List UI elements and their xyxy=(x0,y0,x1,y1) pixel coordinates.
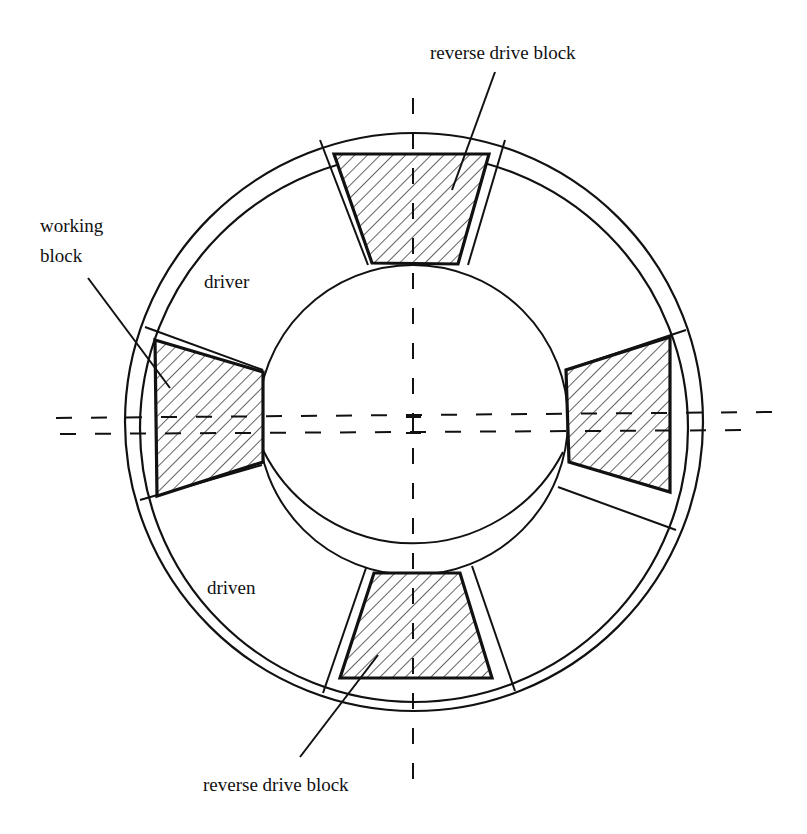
bottom-reverse-drive-block xyxy=(340,573,492,678)
label-reverse-drive-block-top: reverse drive block xyxy=(430,42,576,64)
coupling-cross-section-diagram xyxy=(0,0,807,834)
label-driven: driven xyxy=(207,577,256,599)
label-working-block-line2: block xyxy=(40,245,82,267)
center-mark xyxy=(406,417,421,433)
top-reverse-drive-block xyxy=(334,154,489,264)
label-driver: driver xyxy=(204,271,249,293)
label-working-block-line1: working xyxy=(40,215,103,237)
label-reverse-drive-block-bottom: reverse drive block xyxy=(203,774,349,796)
